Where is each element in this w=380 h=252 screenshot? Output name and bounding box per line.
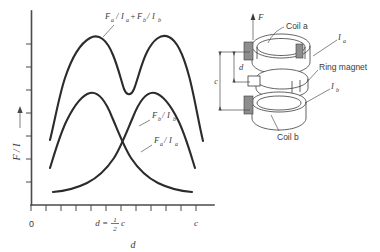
cb-slash: / xyxy=(161,110,166,120)
coil-a-label: Coil a xyxy=(286,21,308,31)
x-axis-midpoint-label: d = 1 2 c xyxy=(95,216,125,233)
annotation-coil-b: F b / I b xyxy=(139,110,176,126)
sum-I2: I xyxy=(151,11,156,21)
x-axis-label: d xyxy=(131,239,137,250)
annotation-coil-a-text: F a / I a xyxy=(153,135,178,147)
current-b-subscript: b xyxy=(336,87,339,93)
callout-ring-magnet: Ring magnet xyxy=(307,62,368,82)
coil-a-winding-hatch-right xyxy=(296,44,303,58)
x-axis-midpoint-lhs: d = xyxy=(95,218,108,228)
figure-canvas: F / I 0 d = 1 2 c c xyxy=(0,0,380,252)
sum-slash1: / xyxy=(115,11,120,21)
sum-sub3: b xyxy=(143,17,146,23)
annotation-coil-a: F a / I a xyxy=(141,135,178,152)
coil-a-body xyxy=(244,34,310,74)
sum-sub2: a xyxy=(126,17,129,23)
coil-b-label: Coil b xyxy=(277,132,299,142)
sum-slash2: / xyxy=(146,11,151,21)
callout-current-a: I a xyxy=(313,32,346,56)
x-axis-midpoint-symbol: c xyxy=(121,218,125,228)
force-arrow-icon xyxy=(251,13,256,20)
sum-plus: + xyxy=(130,11,136,21)
ca-sub1: a xyxy=(160,141,163,147)
sum-F1: F xyxy=(104,11,111,21)
coil-b-winding-hatch xyxy=(244,96,253,114)
cb-sub1: b xyxy=(158,116,161,122)
ca-slash: / xyxy=(163,135,168,145)
cb-I: I xyxy=(166,110,171,120)
dimension-d-label: d xyxy=(239,62,244,72)
y-axis-label: F / I xyxy=(11,143,22,162)
callout-current-b: I b xyxy=(305,81,339,103)
y-axis-arrow-icon xyxy=(17,106,22,113)
force-arrow-group: F xyxy=(251,12,264,40)
sum-sub1: a xyxy=(111,17,114,23)
callout-coil-b: Coil b xyxy=(271,115,299,142)
x-axis-origin-label: 0 xyxy=(29,219,34,229)
current-b-symbol: I xyxy=(330,81,335,91)
x-axis-midpoint-denominator: 2 xyxy=(113,225,117,233)
ring-magnet-core-block xyxy=(248,76,260,86)
dimension-c-label: c xyxy=(214,77,218,86)
x-axis-end-label: c xyxy=(194,218,198,228)
coil-assembly-diagram: F xyxy=(214,12,368,142)
annotation-sum-text: F a / I a + F b / I b xyxy=(104,11,161,23)
annotation-coil-b-text: F b / I b xyxy=(151,110,176,122)
cb-sub2: b xyxy=(173,116,176,122)
coil-a-winding-hatch xyxy=(244,42,253,60)
sum-sub4: b xyxy=(158,17,161,23)
x-axis-ticks xyxy=(31,205,196,211)
sum-I1: I xyxy=(120,11,125,21)
sum-F2: F xyxy=(136,11,143,21)
ca-I: I xyxy=(168,135,173,145)
figure-root: F / I 0 d = 1 2 c c xyxy=(0,0,380,252)
y-axis-label-group: F / I xyxy=(11,106,23,162)
force-label: F xyxy=(257,12,264,22)
ca-F: F xyxy=(153,135,160,145)
ca-sub2: a xyxy=(175,141,178,147)
annotation-sum: F a / I a + F b / I b xyxy=(103,11,161,37)
cb-F: F xyxy=(151,110,158,120)
current-a-symbol: I xyxy=(337,32,342,42)
y-axis-ticks xyxy=(26,44,31,182)
x-axis-midpoint-numerator: 1 xyxy=(113,216,117,224)
plot-area: F / I 0 d = 1 2 c c xyxy=(11,11,214,250)
ring-magnet-label: Ring magnet xyxy=(319,62,368,72)
current-a-subscript: a xyxy=(343,38,346,44)
coil-b-body xyxy=(244,92,306,130)
